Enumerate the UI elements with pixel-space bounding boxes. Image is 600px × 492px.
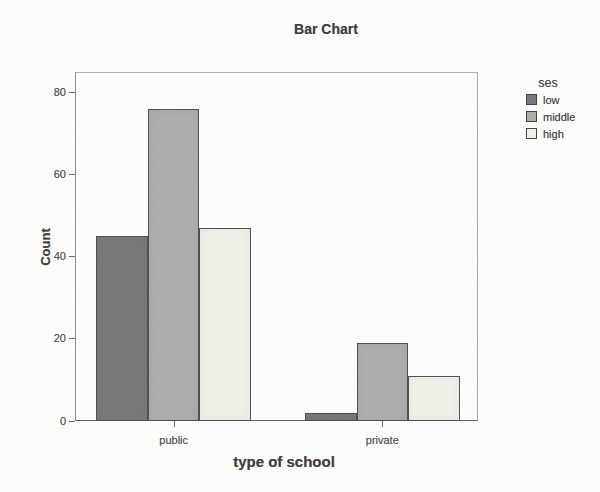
legend-item-high: high <box>524 128 594 139</box>
legend-item-label: middle <box>543 111 575 123</box>
x-tick-label-public: public <box>139 434 209 446</box>
x-axis-label: type of school <box>233 453 335 470</box>
bar-private-middle <box>357 343 409 421</box>
y-tick-label: 40 <box>38 250 66 262</box>
y-tick-mark <box>69 256 75 257</box>
legend-item-label: high <box>543 128 564 140</box>
legend-swatch-middle <box>526 111 537 122</box>
bar-private-low <box>305 413 357 421</box>
legend: ses lowmiddlehigh <box>524 76 594 145</box>
y-tick-mark <box>69 92 75 93</box>
x-tick-mark <box>174 421 175 427</box>
chart-title: Bar Chart <box>294 21 358 37</box>
legend-item-low: low <box>524 94 594 105</box>
y-tick-label: 60 <box>38 168 66 180</box>
y-tick-label: 80 <box>38 86 66 98</box>
bar-public-middle <box>148 109 200 421</box>
legend-items: lowmiddlehigh <box>524 94 594 139</box>
bar-public-high <box>199 228 251 421</box>
bar-private-high <box>408 376 460 421</box>
y-tick-mark <box>69 338 75 339</box>
legend-swatch-low <box>526 94 537 105</box>
legend-title: ses <box>524 76 572 90</box>
y-tick-label: 20 <box>38 332 66 344</box>
legend-item-label: low <box>543 94 560 106</box>
legend-swatch-high <box>526 128 537 139</box>
bar-chart-figure: Bar Chart Count 020406080 publicprivate … <box>0 0 600 492</box>
bar-public-low <box>96 236 148 421</box>
y-tick-mark <box>69 174 75 175</box>
y-tick-mark <box>69 421 75 422</box>
x-tick-label-private: private <box>347 434 417 446</box>
x-tick-mark <box>382 421 383 427</box>
y-tick-label: 0 <box>38 415 66 427</box>
legend-item-middle: middle <box>524 111 594 122</box>
